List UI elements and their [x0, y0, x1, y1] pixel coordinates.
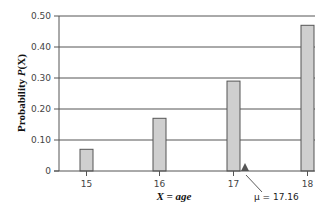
bar-15: [80, 149, 93, 171]
x-tick-label: 16: [154, 179, 166, 189]
mean-marker-triangle-icon: [241, 163, 249, 171]
x-axis-title: X = age: [156, 190, 192, 202]
bar-18: [301, 25, 314, 171]
bar-17: [227, 81, 240, 171]
y-tick-label: 0.50: [31, 11, 51, 21]
mean-arrow-line: [246, 175, 262, 192]
gridlines: [59, 16, 315, 140]
y-axis-ticks: 00.100.200.300.400.50: [31, 11, 59, 176]
mean-label: μ = 17.16: [254, 192, 299, 202]
x-tick-label: 17: [228, 179, 239, 189]
x-tick-label: 15: [81, 179, 92, 189]
y-tick-label: 0.40: [31, 42, 51, 52]
x-tick-label: 18: [302, 179, 314, 189]
y-tick-label: 0.10: [31, 135, 51, 145]
y-tick-label: 0: [45, 166, 51, 176]
y-axis-title: Probability P(X): [15, 54, 28, 132]
bar-16: [153, 118, 166, 171]
y-tick-label: 0.20: [31, 104, 51, 114]
probability-bar-chart: 00.100.200.300.400.50 15161718 Probabili…: [0, 0, 326, 214]
y-tick-label: 0.30: [31, 73, 51, 83]
x-axis-ticks: 15161718: [81, 171, 314, 189]
